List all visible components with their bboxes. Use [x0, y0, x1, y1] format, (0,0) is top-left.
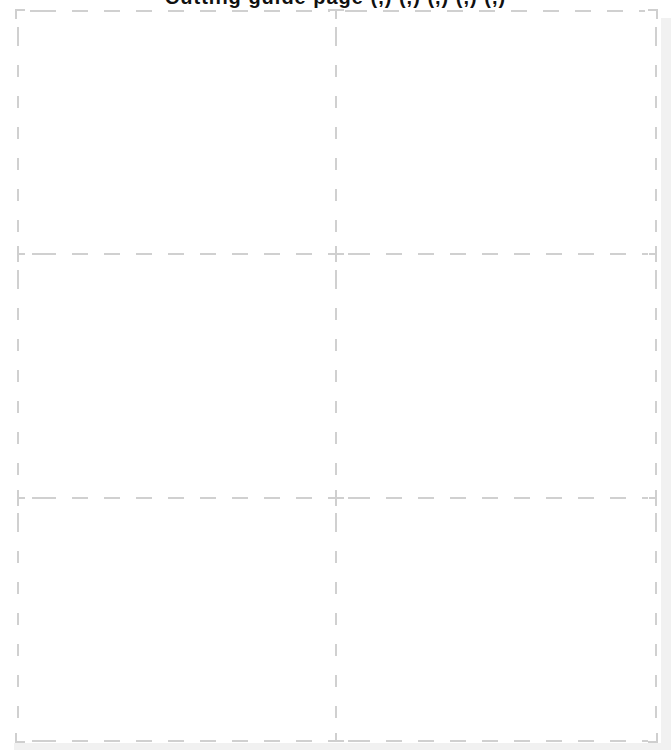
- tee-mark-top-center-bar: [328, 9, 344, 11]
- tee-mark-left-2-bar: [17, 497, 25, 499]
- cut-line-center-mid: [335, 265, 337, 489]
- corner-mark-bottom-left: [15, 733, 25, 743]
- cut-line-center-top: [335, 22, 337, 246]
- tee-mark-left-1-bar: [17, 253, 25, 255]
- tee-mark-right-1-bar: [649, 253, 657, 255]
- cut-line-middle-1-right: [348, 253, 648, 255]
- grid-cell-r2c2: [337, 255, 655, 497]
- grid-cell-r2c1: [18, 255, 335, 497]
- page-shadow-bottom: [14, 743, 671, 750]
- cut-line-bottom-left: [30, 740, 326, 742]
- cut-line-left-bottom: [17, 508, 19, 732]
- cut-line-right: [655, 22, 657, 246]
- cut-line-center-bottom: [335, 508, 337, 732]
- grid-cell-r1c2: [337, 12, 655, 253]
- tee-mark-right-2-bar: [649, 497, 657, 499]
- grid-cell-r3c1: [18, 499, 335, 740]
- page-header-title: Cutting guide page (,) (,) (,) (,) (,): [0, 0, 671, 9]
- corner-mark-bottom-right: [648, 733, 658, 743]
- corner-mark-top-left: [15, 9, 25, 19]
- cross-mark-center-1: [328, 246, 344, 262]
- cut-line-middle-1-left: [30, 253, 326, 255]
- grid-cell-r3c2: [337, 499, 655, 740]
- cross-mark-center-2: [328, 490, 344, 506]
- cut-line-middle-2-left: [30, 497, 326, 499]
- tee-mark-bottom-center-bar: [328, 740, 344, 742]
- cut-line-right-bottom: [655, 508, 657, 732]
- grid-cell-r1c1: [18, 12, 335, 253]
- page-shadow-right: [661, 18, 671, 750]
- cut-line-left: [17, 22, 19, 246]
- cut-line-top-right: [345, 10, 645, 12]
- cut-line-left-mid: [17, 265, 19, 489]
- cut-line-middle-2-right: [348, 497, 648, 499]
- corner-mark-top-right: [648, 9, 658, 19]
- cut-line-top: [30, 10, 330, 12]
- cut-line-bottom-right: [348, 740, 648, 742]
- cut-line-right-mid: [655, 265, 657, 489]
